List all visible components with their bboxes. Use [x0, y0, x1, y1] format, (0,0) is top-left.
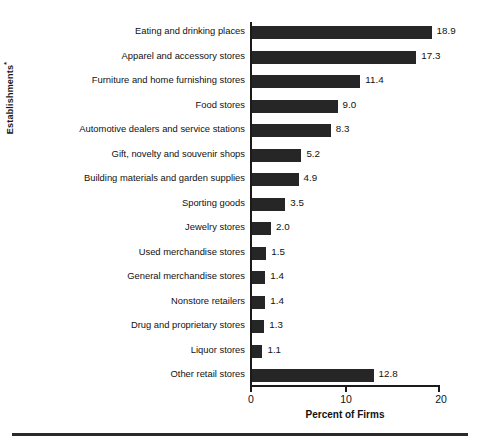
- bar-track: [252, 75, 360, 88]
- bottom-divider-rule: [12, 433, 468, 436]
- bar-category-label: Used merchandise stores: [139, 246, 245, 258]
- bar-row: Liquor stores1.1: [30, 341, 478, 366]
- bar-category-label: Jewelry stores: [185, 221, 245, 233]
- x-axis-tick: [438, 385, 440, 392]
- bar-track: [252, 173, 299, 186]
- bar-track: [252, 247, 266, 260]
- bar-value-label: 3.5: [290, 196, 304, 209]
- bar-track: [252, 198, 285, 211]
- bar-value-label: 11.4: [365, 73, 383, 86]
- bar-track: [252, 149, 301, 162]
- bar-value-label: 4.9: [304, 171, 318, 184]
- bar-value-label: 1.4: [270, 269, 284, 282]
- bar: [252, 345, 262, 358]
- bar-category-label: Automotive dealers and service stations: [79, 123, 245, 135]
- bar: [252, 369, 374, 382]
- bar-category-label: Eating and drinking places: [135, 25, 245, 37]
- bar-track: [252, 296, 265, 309]
- bar-value-label: 8.3: [336, 122, 350, 135]
- bar-row: Eating and drinking places18.9: [30, 22, 478, 47]
- bar-track: [252, 222, 271, 235]
- bar-value-label: 12.8: [379, 367, 398, 380]
- bar-value-label: 1.3: [269, 318, 283, 331]
- bar-value-label: 1.4: [270, 294, 284, 307]
- bar-track: [252, 369, 374, 382]
- y-axis-title-footnote-marker: *: [3, 62, 10, 65]
- bar: [252, 124, 331, 137]
- bar-row: Building materials and garden supplies4.…: [30, 169, 478, 194]
- bar-row: Sporting goods3.5: [30, 194, 478, 219]
- horizontal-bar-chart: Establishments* Eating and drinking plac…: [0, 0, 478, 447]
- bar-value-label: 2.0: [276, 220, 290, 233]
- bar: [252, 296, 265, 309]
- bar: [252, 100, 338, 113]
- bar-category-label: Drug and proprietary stores: [131, 319, 245, 331]
- bar-category-label: Furniture and home furnishing stores: [92, 74, 245, 86]
- y-axis-title-text: Establishments: [5, 65, 15, 134]
- x-axis-tick: [345, 385, 347, 392]
- bar-value-label: 1.5: [271, 245, 285, 258]
- bar-track: [252, 320, 264, 333]
- y-axis-title: Establishments*: [1, 28, 19, 168]
- bar-row: Food stores9.0: [30, 96, 478, 121]
- x-axis-tick-label: 0: [236, 393, 266, 405]
- bar-category-label: Food stores: [195, 99, 245, 111]
- bar-category-label: Gift, novelty and souvenir shops: [112, 148, 245, 160]
- bar-row: General merchandise stores1.4: [30, 267, 478, 292]
- bar: [252, 320, 264, 333]
- bar: [252, 198, 285, 211]
- plot-area: Eating and drinking places18.9Apparel an…: [30, 22, 478, 382]
- x-axis-tick-label: 10: [331, 393, 361, 405]
- bar: [252, 75, 360, 88]
- bar-category-label: Sporting goods: [182, 197, 245, 209]
- bar-value-label: 18.9: [437, 24, 456, 37]
- bar-category-label: Nonstore retailers: [171, 295, 245, 307]
- bar-value-label: 17.3: [421, 49, 440, 62]
- bar-value-label: 9.0: [343, 98, 357, 111]
- bar-value-label: 1.1: [267, 343, 281, 356]
- bar: [252, 222, 271, 235]
- bar-category-label: General merchandise stores: [127, 270, 245, 282]
- bar-category-label: Building materials and garden supplies: [84, 172, 245, 184]
- bar-track: [252, 345, 262, 358]
- bar-row: Gift, novelty and souvenir shops5.2: [30, 145, 478, 170]
- bar: [252, 271, 265, 284]
- bar-row: Jewelry stores2.0: [30, 218, 478, 243]
- bar-track: [252, 26, 432, 39]
- bar-value-label: 5.2: [306, 147, 320, 160]
- bar-row: Nonstore retailers1.4: [30, 292, 478, 317]
- bar-row: Apparel and accessory stores17.3: [30, 47, 478, 72]
- bar-row: Automotive dealers and service stations8…: [30, 120, 478, 145]
- bar-track: [252, 51, 416, 64]
- bar-track: [252, 124, 331, 137]
- bar: [252, 173, 299, 186]
- bar-category-label: Liquor stores: [191, 344, 245, 356]
- bar: [252, 26, 432, 39]
- bar: [252, 149, 301, 162]
- bar-row: Used merchandise stores1.5: [30, 243, 478, 268]
- bar: [252, 51, 416, 64]
- bar-row: Drug and proprietary stores1.3: [30, 316, 478, 341]
- bar-track: [252, 271, 265, 284]
- bar-category-label: Apparel and accessory stores: [121, 50, 245, 62]
- bar: [252, 247, 266, 260]
- bar-category-label: Other retail stores: [170, 368, 245, 380]
- x-axis-tick: [250, 385, 252, 392]
- x-axis-title: Percent of Firms: [250, 409, 440, 420]
- bar-row: Furniture and home furnishing stores11.4: [30, 71, 478, 96]
- bar-track: [252, 100, 338, 113]
- x-axis-tick-label: 20: [426, 393, 456, 405]
